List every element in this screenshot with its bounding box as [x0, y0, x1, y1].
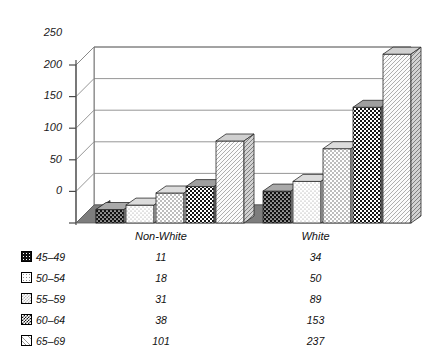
chart-side-wall [76, 47, 94, 223]
y-axis [69, 60, 76, 225]
y-tick-0: 0 [20, 185, 62, 196]
table-row: 60–64 38 153 [17, 309, 393, 330]
diagonal-hatch-swatch [21, 335, 32, 346]
table-corner-cell [17, 225, 84, 246]
legend-label-60-64: 60–64 [36, 314, 65, 326]
y-tick-100: 100 [20, 122, 62, 133]
table-header-row: Non-White White [17, 225, 393, 246]
cell-non-white-60-64: 38 [84, 309, 238, 330]
table-row: 50–54 18 50 [17, 267, 393, 288]
data-table: Non-White White 45–49 11 34 50–54 18 50 [17, 225, 393, 351]
light-dots-swatch [21, 272, 32, 283]
cell-non-white-50-54: 18 [84, 267, 238, 288]
legend-item-60-64: 60–64 [17, 309, 84, 330]
bar-white-65-69 [383, 47, 421, 223]
legend-item-65-69: 65–69 [17, 330, 84, 351]
table-row: 45–49 11 34 [17, 246, 393, 267]
light-check-swatch [21, 293, 32, 304]
legend-item-55-59: 55–59 [17, 288, 84, 309]
cell-white-60-64: 153 [238, 309, 393, 330]
dark-check-swatch [21, 314, 32, 325]
chart-svg [0, 0, 430, 225]
legend-label-55-59: 55–59 [36, 293, 65, 305]
cell-white-45-49: 34 [238, 246, 393, 267]
legend-item-45-49: 45–49 [17, 246, 84, 267]
table-row: 65–69 101 237 [17, 330, 393, 351]
legend-item-50-54: 50–54 [17, 267, 84, 288]
y-tick-50: 50 [20, 154, 62, 165]
cell-white-50-54: 50 [238, 267, 393, 288]
y-tick-250: 250 [20, 27, 62, 38]
bar-chart-figure: 250 200 150 100 50 0 Non-White White 45–… [0, 0, 430, 358]
cell-non-white-45-49: 11 [84, 246, 238, 267]
cell-non-white-55-59: 31 [84, 288, 238, 309]
legend-label-65-69: 65–69 [36, 335, 65, 347]
column-header-non-white: Non-White [84, 225, 238, 246]
y-tick-200: 200 [20, 59, 62, 70]
column-header-white: White [238, 225, 393, 246]
chart-plot-area: 250 200 150 100 50 0 [0, 0, 430, 225]
y-tick-150: 150 [20, 90, 62, 101]
legend-label-50-54: 50–54 [36, 272, 65, 284]
filled-dark-dots-swatch [21, 251, 32, 262]
cell-non-white-65-69: 101 [84, 330, 238, 351]
bar-non-white-65-69 [216, 134, 254, 223]
legend-label-45-49: 45–49 [36, 251, 65, 263]
cell-white-65-69: 237 [238, 330, 393, 351]
cell-white-55-59: 89 [238, 288, 393, 309]
table-row: 55–59 31 89 [17, 288, 393, 309]
